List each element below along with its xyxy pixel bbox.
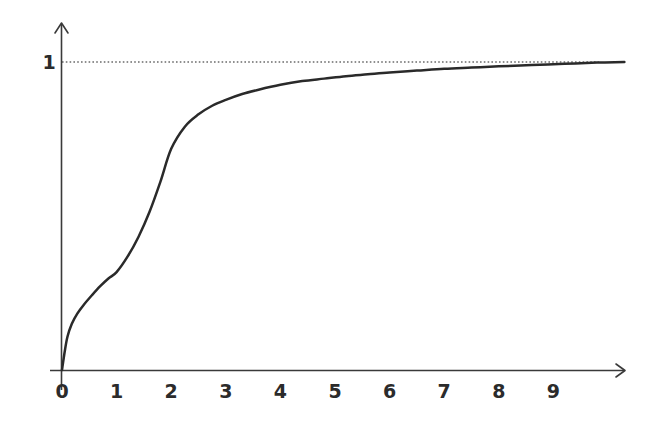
x-tick-label-2: 2 [165,380,178,402]
x-tick-label-5: 5 [328,380,341,402]
chart-figure: 1 0123456789 [0,0,648,421]
x-tick-label-1: 1 [110,380,123,402]
x-tick-label-7: 7 [438,380,451,402]
x-tick-label-9: 9 [547,380,560,402]
x-tick-label-0: 0 [55,380,68,402]
x-tick-label-6: 6 [383,380,396,402]
chart-canvas: 1 0123456789 [0,0,648,421]
x-tick-label-4: 4 [274,380,287,402]
y-tick-label-1: 1 [42,51,55,73]
x-tick-label-8: 8 [492,380,505,402]
y-tick-labels: 1 [42,51,55,73]
x-tick-label-3: 3 [219,380,232,402]
